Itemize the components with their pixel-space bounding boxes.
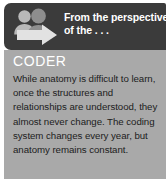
callout-header-text: From the perspective of the . . . — [64, 11, 164, 37]
callout-body-panel: CODER While anatomy is difficult to lear… — [4, 50, 166, 179]
people-with-arrow-icon — [12, 7, 60, 47]
callout-header-line-2: of the . . . — [64, 24, 164, 37]
callout-header-band: From the perspective of the . . . — [4, 3, 166, 50]
callout-header-line-1: From the perspective — [64, 11, 164, 24]
role-heading: CODER — [13, 53, 67, 70]
callout-header-inner: From the perspective of the . . . — [4, 3, 166, 50]
callout-body-paragraph: While anatomy is difficult to learn, onc… — [13, 72, 163, 157]
perspective-callout-card: From the perspective of the . . . CODER … — [0, 0, 166, 179]
